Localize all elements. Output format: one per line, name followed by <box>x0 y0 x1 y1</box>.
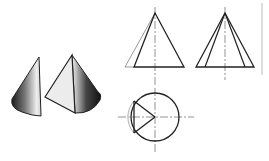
front-view <box>125 7 184 86</box>
side-view <box>196 7 254 80</box>
side-inner-left <box>205 13 225 67</box>
side-inner-right <box>225 13 245 67</box>
cone-diagram <box>0 0 269 161</box>
front-hidden-edge <box>125 13 155 67</box>
top-view <box>118 88 194 152</box>
pictorial-right-piece <box>45 55 101 113</box>
pictorial-left-piece <box>12 57 41 116</box>
front-outline <box>134 13 184 67</box>
